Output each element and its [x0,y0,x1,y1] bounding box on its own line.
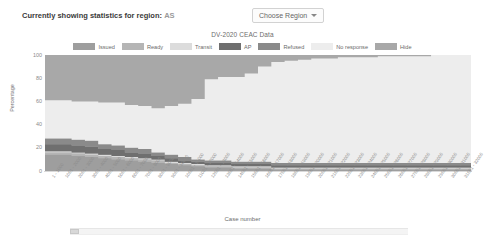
chevron-down-icon [311,14,317,17]
legend-swatch-icon [375,43,397,50]
y-axis-tick-label: 60 [26,99,42,104]
legend-item-label: Transit [195,44,212,50]
page-header: Currently showing statistics for region:… [0,8,485,30]
legend-item[interactable]: Ready [122,43,163,50]
legend-item[interactable]: Refused [258,43,304,50]
legend-swatch-icon [219,43,241,50]
legend-swatch-icon [311,43,333,50]
y-axis-ticks: 020406080100 [24,55,42,171]
ceac-statistics-page: Currently showing statistics for region:… [0,0,485,238]
y-axis-tick-label: 100 [26,53,42,58]
horizontal-scrollbar[interactable] [70,228,408,235]
legend-item-label: Refused [283,44,304,50]
x-axis-title: Case number [0,216,485,222]
legend-item[interactable]: Issued [73,43,114,50]
choose-region-dropdown[interactable]: Choose Region [252,8,324,23]
chart-legend: IssuedReadyTransitAPRefusedNo responseHi… [0,43,485,50]
y-axis-tick-label: 80 [26,76,42,81]
y-axis-title: Percentage [9,68,15,128]
legend-item[interactable]: No response [311,43,368,50]
legend-item-label: No response [336,44,368,50]
y-axis-tick-label: 40 [26,122,42,127]
region-status-label: Currently showing statistics for region: [22,11,162,20]
legend-swatch-icon [170,43,192,50]
legend-item-label: AP [244,44,251,50]
y-axis-tick-label: 20 [26,145,42,150]
legend-item[interactable]: Transit [170,43,212,50]
choose-region-label: Choose Region [259,12,307,19]
region-status-value: AS [164,11,174,20]
legend-item-label: Issued [98,44,114,50]
region-status-line: Currently showing statistics for region:… [22,10,175,22]
scrollbar-thumb[interactable] [70,229,79,234]
legend-swatch-icon [73,43,95,50]
y-axis-tick-label: 0 [26,169,42,174]
legend-item-label: Hide [400,44,412,50]
x-axis-ticks: 1 - 10001001 - 20002001 - 30003001 - 400… [45,176,475,216]
legend-swatch-icon [122,43,144,50]
chart-title: DV-2020 CEAC Data [0,31,485,38]
legend-swatch-icon [258,43,280,50]
legend-item[interactable]: AP [219,43,251,50]
legend-item[interactable]: Hide [375,43,412,50]
legend-item-label: Ready [147,44,163,50]
